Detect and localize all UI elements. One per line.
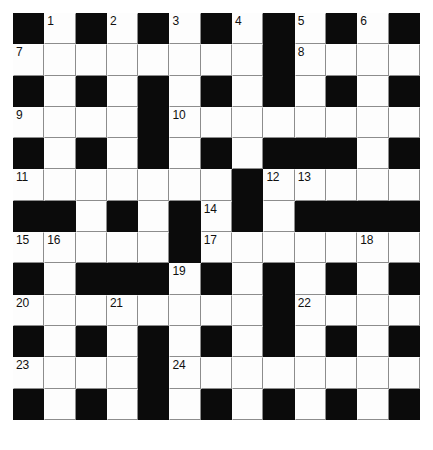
crossword-grid[interactable]: 123456789101112131415161718192021222324 (13, 13, 420, 420)
letter-cell[interactable]: 17 (201, 232, 232, 263)
letter-cell[interactable] (326, 107, 357, 138)
letter-cell[interactable] (263, 232, 294, 263)
letter-cell[interactable] (357, 107, 388, 138)
letter-cell[interactable] (107, 389, 138, 420)
letter-cell[interactable] (44, 169, 75, 200)
letter-cell[interactable] (169, 389, 200, 420)
letter-cell[interactable] (169, 44, 200, 75)
letter-cell[interactable] (389, 44, 420, 75)
letter-cell[interactable] (169, 295, 200, 326)
letter-cell[interactable]: 6 (357, 13, 388, 44)
letter-cell[interactable] (44, 326, 75, 357)
letter-cell[interactable]: 24 (169, 357, 200, 388)
letter-cell[interactable] (232, 76, 263, 107)
letter-cell[interactable] (232, 263, 263, 294)
letter-cell[interactable]: 1 (44, 13, 75, 44)
letter-cell[interactable] (169, 76, 200, 107)
letter-cell[interactable] (76, 107, 107, 138)
letter-cell[interactable] (263, 201, 294, 232)
letter-cell[interactable]: 23 (13, 357, 44, 388)
letter-cell[interactable] (201, 295, 232, 326)
letter-cell[interactable] (326, 232, 357, 263)
letter-cell[interactable] (107, 44, 138, 75)
letter-cell[interactable] (201, 44, 232, 75)
letter-cell[interactable]: 22 (295, 295, 326, 326)
letter-cell[interactable]: 21 (107, 295, 138, 326)
letter-cell[interactable] (107, 169, 138, 200)
letter-cell[interactable] (389, 232, 420, 263)
letter-cell[interactable]: 2 (107, 13, 138, 44)
letter-cell[interactable] (107, 326, 138, 357)
letter-cell[interactable]: 19 (169, 263, 200, 294)
letter-cell[interactable] (232, 44, 263, 75)
letter-cell[interactable] (326, 295, 357, 326)
letter-cell[interactable] (107, 107, 138, 138)
letter-cell[interactable]: 11 (13, 169, 44, 200)
letter-cell[interactable] (169, 169, 200, 200)
letter-cell[interactable] (44, 295, 75, 326)
letter-cell[interactable]: 15 (13, 232, 44, 263)
letter-cell[interactable]: 9 (13, 107, 44, 138)
letter-cell[interactable] (232, 295, 263, 326)
letter-cell[interactable] (76, 201, 107, 232)
letter-cell[interactable] (44, 357, 75, 388)
letter-cell[interactable] (357, 357, 388, 388)
letter-cell[interactable] (44, 107, 75, 138)
letter-cell[interactable] (44, 44, 75, 75)
letter-cell[interactable] (76, 169, 107, 200)
letter-cell[interactable] (232, 326, 263, 357)
letter-cell[interactable]: 14 (201, 201, 232, 232)
letter-cell[interactable]: 3 (169, 13, 200, 44)
letter-cell[interactable] (232, 389, 263, 420)
letter-cell[interactable] (76, 357, 107, 388)
letter-cell[interactable] (263, 107, 294, 138)
letter-cell[interactable]: 20 (13, 295, 44, 326)
letter-cell[interactable] (232, 357, 263, 388)
letter-cell[interactable] (295, 389, 326, 420)
letter-cell[interactable] (389, 107, 420, 138)
letter-cell[interactable]: 12 (263, 169, 294, 200)
letter-cell[interactable] (295, 107, 326, 138)
letter-cell[interactable] (389, 295, 420, 326)
letter-cell[interactable] (295, 232, 326, 263)
letter-cell[interactable] (326, 357, 357, 388)
letter-cell[interactable] (357, 389, 388, 420)
letter-cell[interactable] (107, 138, 138, 169)
letter-cell[interactable] (326, 44, 357, 75)
letter-cell[interactable] (295, 263, 326, 294)
letter-cell[interactable] (44, 389, 75, 420)
letter-cell[interactable] (107, 357, 138, 388)
letter-cell[interactable] (357, 44, 388, 75)
letter-cell[interactable] (201, 169, 232, 200)
letter-cell[interactable] (263, 357, 294, 388)
letter-cell[interactable] (357, 138, 388, 169)
letter-cell[interactable] (201, 107, 232, 138)
letter-cell[interactable] (138, 44, 169, 75)
letter-cell[interactable] (232, 232, 263, 263)
letter-cell[interactable] (44, 138, 75, 169)
letter-cell[interactable]: 10 (169, 107, 200, 138)
letter-cell[interactable]: 4 (232, 13, 263, 44)
letter-cell[interactable] (107, 76, 138, 107)
letter-cell[interactable]: 16 (44, 232, 75, 263)
letter-cell[interactable] (357, 326, 388, 357)
letter-cell[interactable] (232, 107, 263, 138)
letter-cell[interactable] (232, 138, 263, 169)
letter-cell[interactable]: 8 (295, 44, 326, 75)
letter-cell[interactable] (138, 201, 169, 232)
letter-cell[interactable] (76, 232, 107, 263)
letter-cell[interactable] (107, 232, 138, 263)
letter-cell[interactable] (138, 232, 169, 263)
letter-cell[interactable] (44, 263, 75, 294)
letter-cell[interactable] (389, 357, 420, 388)
letter-cell[interactable] (295, 357, 326, 388)
letter-cell[interactable] (357, 263, 388, 294)
letter-cell[interactable]: 7 (13, 44, 44, 75)
letter-cell[interactable] (138, 169, 169, 200)
letter-cell[interactable] (169, 326, 200, 357)
letter-cell[interactable] (357, 169, 388, 200)
letter-cell[interactable] (76, 295, 107, 326)
letter-cell[interactable] (76, 44, 107, 75)
letter-cell[interactable]: 13 (295, 169, 326, 200)
letter-cell[interactable] (357, 295, 388, 326)
